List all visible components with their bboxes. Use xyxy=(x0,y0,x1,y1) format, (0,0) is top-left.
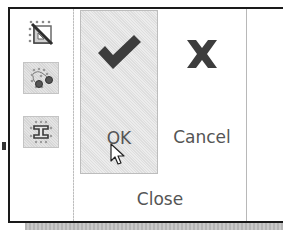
group-divider-right xyxy=(246,9,247,221)
mouse-cursor-icon xyxy=(110,143,126,167)
close-group-label: Close xyxy=(74,189,246,209)
checkmark-icon xyxy=(96,33,142,71)
i-beam-icon xyxy=(27,118,55,146)
snap-points-icon xyxy=(27,64,55,92)
cancel-label: Cancel xyxy=(160,127,244,147)
ribbon-panel: OK Cancel Close xyxy=(8,7,283,223)
cancel-button[interactable]: Cancel xyxy=(160,10,244,174)
x-icon xyxy=(184,38,220,70)
window-shadow xyxy=(25,223,283,230)
constraint-triangle-button[interactable] xyxy=(23,17,59,49)
snap-points-button[interactable] xyxy=(23,62,59,94)
left-edge-fragment xyxy=(2,142,6,150)
i-beam-section-button[interactable] xyxy=(23,116,59,148)
right-triangle-grid-icon xyxy=(27,19,55,47)
